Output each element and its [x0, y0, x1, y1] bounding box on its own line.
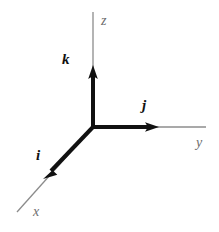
k-vector-label: k	[62, 52, 70, 67]
axes-diagram-svg	[0, 0, 219, 232]
i-vector-arrowhead	[43, 165, 58, 179]
y-axis-label: y	[196, 136, 202, 150]
i-vector-label: i	[36, 148, 40, 163]
i-vector-shaft	[51, 127, 93, 171]
j-vector-label: j	[142, 98, 146, 113]
i-unit-vector	[43, 127, 93, 179]
k-unit-vector	[88, 65, 98, 127]
x-axis-label: x	[33, 205, 39, 219]
coordinate-axes-figure: z y x k j i	[0, 0, 219, 232]
z-axis-label: z	[101, 14, 106, 28]
j-unit-vector	[93, 122, 159, 132]
